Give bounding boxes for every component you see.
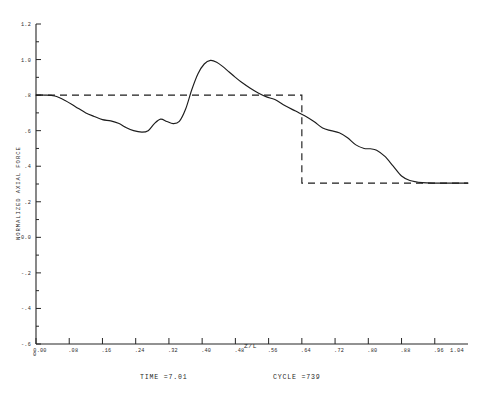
x-tick-label: .24 (135, 348, 145, 354)
y-tick-label: -.6 (21, 342, 31, 348)
x-axis-end-label: 1.04 (450, 348, 464, 354)
y-tick-label: -.4 (21, 306, 31, 312)
y-axis-tick-labels: 1.21.0.8.6.4.20.0-.2-.4-.6 (21, 22, 31, 348)
x-axis-ticks (36, 338, 435, 344)
x-tick-label: .80 (367, 348, 377, 354)
x-tick-label: .40 (201, 348, 211, 354)
axis-lines (36, 24, 468, 344)
x-tick-label: .32 (168, 348, 178, 354)
y-tick-label: 1.2 (21, 22, 31, 28)
x-axis-tick-labels: 0.00.08.16.24.32.40.48.56.64.72.80.88.96 (33, 348, 443, 354)
y-axis-ticks (36, 24, 41, 344)
x-tick-label: .88 (401, 348, 411, 354)
x-axis-title: Z/L (244, 343, 257, 350)
axial-force-plot: 1.21.0.8.6.4.20.0-.2-.4-.6 0.00.08.16.24… (0, 0, 484, 404)
time-annotation: TIME =7.01 (140, 374, 188, 381)
reference-step-line (36, 95, 468, 183)
y-tick-label: .6 (24, 129, 31, 135)
x-tick-label: .96 (434, 348, 444, 354)
y-tick-label: -.2 (21, 271, 31, 277)
x-tick-label: .16 (101, 348, 111, 354)
cycle-annotation: CYCLE =739 (273, 374, 321, 381)
y-tick-label: 0.0 (21, 235, 31, 241)
x-axis-origin-label: 0 (33, 352, 37, 358)
x-tick-label: .48 (234, 348, 244, 354)
y-tick-label: .8 (24, 93, 31, 99)
x-tick-label: .72 (334, 348, 344, 354)
y-tick-label: 1.0 (21, 58, 31, 64)
x-tick-label: .08 (68, 348, 78, 354)
y-axis-title: NORMALIZED AXIAL FORCE (15, 146, 22, 240)
figure-panel: 1.21.0.8.6.4.20.0-.2-.4-.6 0.00.08.16.24… (0, 0, 484, 404)
y-tick-label: .2 (24, 200, 31, 206)
y-tick-label: .4 (24, 164, 31, 170)
x-tick-label: .64 (301, 348, 311, 354)
axial-force-curve (36, 60, 468, 183)
x-tick-label: .56 (268, 348, 278, 354)
